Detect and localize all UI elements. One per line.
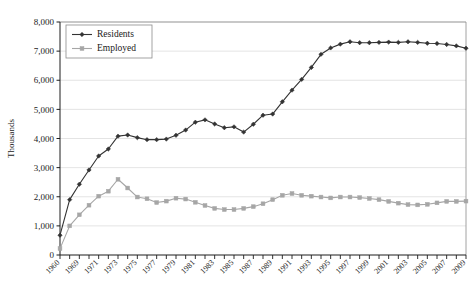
data-point <box>358 196 362 200</box>
data-point <box>338 42 342 46</box>
chart-canvas: 01,0002,0003,0004,0005,0006,0007,0008,00… <box>0 0 472 300</box>
data-point <box>454 44 458 48</box>
data-point <box>87 203 91 207</box>
data-point <box>406 40 410 44</box>
x-axis-tick-label: 2009 <box>450 258 468 276</box>
data-point <box>425 202 429 206</box>
data-point <box>377 198 381 202</box>
data-point <box>261 202 265 206</box>
x-axis-tick-label: 1991 <box>276 258 294 276</box>
x-axis-tick-label: 2001 <box>372 258 390 276</box>
x-axis: 1960196919711973197519771979198119831985… <box>44 255 468 276</box>
x-axis-tick-label: 1985 <box>218 258 236 276</box>
data-point <box>300 193 304 197</box>
data-point <box>58 233 62 237</box>
data-point <box>309 194 313 198</box>
x-axis-tick-label: 1971 <box>82 258 100 276</box>
data-point <box>145 137 149 141</box>
data-point <box>154 137 158 141</box>
data-point <box>135 195 139 199</box>
data-point <box>377 40 381 44</box>
y-axis-tick-label: 4,000 <box>34 134 55 144</box>
data-point <box>174 196 178 200</box>
data-point <box>126 186 130 190</box>
data-point <box>203 204 207 208</box>
data-point <box>77 213 81 217</box>
y-axis-tick-label: 2,000 <box>34 192 55 202</box>
x-axis-tick-label: 2007 <box>430 258 448 276</box>
y-axis: 01,0002,0003,0004,0005,0006,0007,0008,00… <box>34 17 60 260</box>
data-point <box>425 41 429 45</box>
data-point <box>348 40 352 44</box>
data-point <box>415 40 419 44</box>
data-point <box>396 40 400 44</box>
data-point <box>251 205 255 209</box>
data-point <box>387 200 391 204</box>
data-point <box>155 201 159 205</box>
data-point <box>164 199 168 203</box>
legend-label-residents: Residents <box>97 29 134 39</box>
legend-marker-employed <box>80 47 84 51</box>
y-axis-tick-label: 7,000 <box>34 46 55 56</box>
data-point <box>271 198 275 202</box>
x-axis-tick-label: 1979 <box>160 258 178 276</box>
y-axis-tick-label: 1,000 <box>34 221 55 231</box>
data-point <box>416 203 420 207</box>
data-point <box>386 40 390 44</box>
x-axis-tick-label: 1989 <box>256 258 274 276</box>
data-point <box>464 199 468 203</box>
data-point <box>242 207 246 211</box>
data-point <box>357 40 361 44</box>
y-axis-tick-label: 8,000 <box>34 17 55 27</box>
y-axis-tick-label: 3,000 <box>34 163 55 173</box>
legend-label-employed: Employed <box>97 43 136 53</box>
data-point <box>222 208 226 212</box>
data-point <box>435 201 439 205</box>
x-axis-tick-label: 1973 <box>102 258 120 276</box>
data-point <box>125 133 129 137</box>
data-point <box>106 189 110 193</box>
x-axis-tick-label: 1983 <box>198 258 216 276</box>
data-point <box>222 126 226 130</box>
data-point <box>212 122 216 126</box>
x-axis-tick-label: 1997 <box>334 258 352 276</box>
data-point <box>290 192 294 196</box>
data-point <box>406 203 410 207</box>
y-axis-title: Thousands <box>6 119 16 158</box>
x-axis-tick-label: 2003 <box>392 258 410 276</box>
x-axis-tick-label: 1975 <box>121 258 139 276</box>
data-point <box>174 133 178 137</box>
data-point <box>58 247 62 251</box>
data-point <box>367 197 371 201</box>
y-axis-tick-label: 6,000 <box>34 75 55 85</box>
data-point <box>280 193 284 197</box>
series-employed <box>58 177 468 250</box>
y-axis-tick-label: 5,000 <box>34 105 55 115</box>
data-point <box>184 197 188 201</box>
x-axis-tick-label: 1995 <box>314 258 332 276</box>
data-point <box>145 197 149 201</box>
data-point <box>319 195 323 199</box>
x-axis-tick-label: 1987 <box>237 258 255 276</box>
data-point <box>329 196 333 200</box>
data-point <box>232 208 236 212</box>
line-chart: 01,0002,0003,0004,0005,0006,0007,0008,00… <box>0 0 472 300</box>
data-point <box>203 118 207 122</box>
x-axis-tick-label: 2005 <box>411 258 429 276</box>
x-axis-tick-label: 1999 <box>353 258 371 276</box>
data-point <box>435 41 439 45</box>
data-point <box>193 200 197 204</box>
data-point <box>396 201 400 205</box>
chart-legend: ResidentsEmployed <box>66 25 152 58</box>
x-axis-tick-label: 1993 <box>295 258 313 276</box>
data-point <box>135 135 139 139</box>
data-point <box>164 137 168 141</box>
x-axis-tick-label: 1981 <box>179 258 197 276</box>
data-point <box>213 207 217 211</box>
data-point <box>68 224 72 228</box>
x-axis-tick-label: 1969 <box>63 258 81 276</box>
data-point <box>116 177 120 181</box>
data-point <box>444 42 448 46</box>
data-point <box>348 195 352 199</box>
series-line <box>60 179 466 248</box>
